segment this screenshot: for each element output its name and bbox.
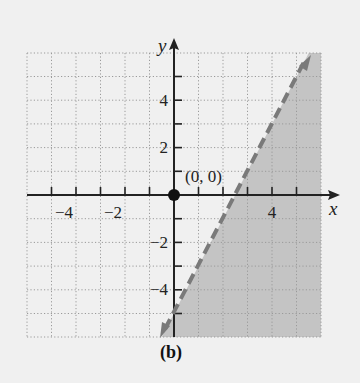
x-tick-label: −2: [104, 203, 122, 222]
point-label: (0, 0): [185, 167, 222, 186]
coordinate-plane: y x (0, 0) −4 −2 4 4 2 −2 −4 (b): [0, 0, 360, 383]
y-axis: [169, 38, 182, 337]
figure-caption: (b): [160, 342, 182, 363]
y-tick-label: 2: [160, 138, 169, 157]
y-axis-label: y: [156, 35, 167, 56]
y-tick-label: −4: [150, 280, 169, 299]
x-tick-label: −4: [55, 203, 74, 222]
y-tick-label: 4: [160, 91, 169, 110]
y-tick-label: −2: [150, 233, 168, 252]
origin-point: [168, 189, 180, 201]
x-axis-label: x: [328, 198, 338, 219]
x-tick-label: 4: [268, 203, 277, 222]
